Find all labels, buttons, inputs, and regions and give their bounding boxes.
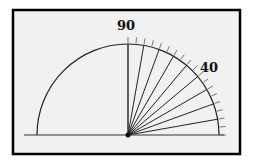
tick-85 bbox=[136, 37, 137, 43]
label-40: 40 bbox=[200, 60, 218, 75]
protractor-diagram: 90 40 bbox=[0, 0, 253, 162]
center-point bbox=[126, 133, 131, 138]
tick-5 bbox=[220, 126, 226, 127]
label-90: 90 bbox=[117, 18, 135, 33]
